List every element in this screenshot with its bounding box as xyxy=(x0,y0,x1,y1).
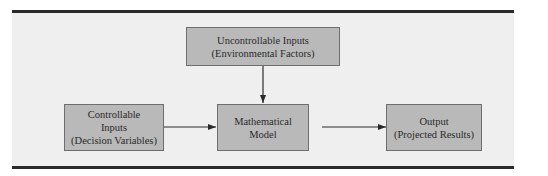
node-label-line: (Environmental Factors) xyxy=(212,47,315,60)
node-label-line: Uncontrollable Inputs xyxy=(217,34,309,47)
node-label-line: Output xyxy=(419,115,448,128)
node-controllable-inputs: Controllable Inputs (Decision Variables) xyxy=(64,104,164,151)
node-label-line: (Projected Results) xyxy=(394,128,474,141)
node-label-line: (Decision Variables) xyxy=(71,134,157,147)
node-uncontrollable-inputs: Uncontrollable Inputs (Environmental Fac… xyxy=(186,27,340,66)
node-label-line: Controllable xyxy=(88,108,141,121)
node-mathematical-model: Mathematical Model xyxy=(217,104,309,151)
node-output: Output (Projected Results) xyxy=(386,104,482,151)
node-label-line: Mathematical xyxy=(234,115,292,128)
node-label-line: Inputs xyxy=(101,121,127,134)
node-label-line: Model xyxy=(249,128,276,141)
